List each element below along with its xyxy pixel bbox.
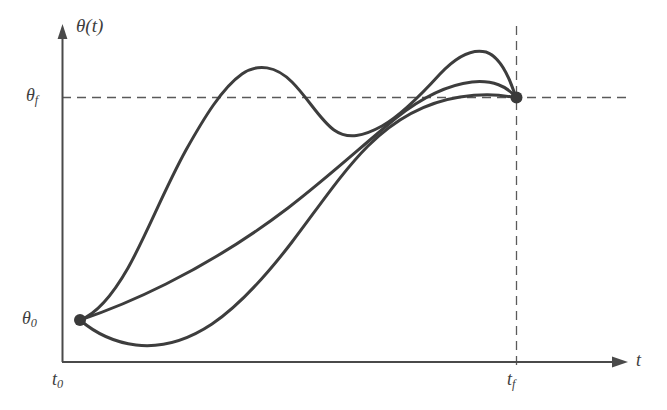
- curve-mild-overshoot-trajectory: [80, 82, 516, 320]
- endpoint-marker-initial: [74, 314, 86, 326]
- x-axis-arrowhead-icon: [612, 357, 628, 368]
- y-tick-label-theta-0: θ0: [22, 309, 37, 330]
- y-tick-label-theta-f: θf: [26, 86, 38, 107]
- x-tick-label-t-f: tf: [507, 370, 515, 391]
- y-axis-label-theta: θ: [76, 15, 85, 36]
- endpoint-marker-final: [511, 92, 523, 104]
- trajectory-plot-figure: θ(t) t θf θ0 t0 tf: [0, 0, 667, 410]
- theta-f-base: θ: [26, 85, 35, 105]
- curve-oscillatory-overshoot-trajectory: [80, 51, 516, 320]
- y-axis-label: θ(t): [76, 16, 103, 35]
- curve-undershoot-sigmoid-trajectory: [80, 95, 516, 346]
- y-axis-label-close-paren: ): [97, 15, 103, 36]
- theta-0-subscript: 0: [31, 316, 37, 330]
- x-tick-label-t-0: t0: [52, 370, 63, 391]
- t-0-subscript: 0: [57, 377, 63, 391]
- t-f-subscript: f: [512, 377, 515, 391]
- x-axis-label-t: t: [636, 350, 641, 370]
- theta-f-subscript: f: [35, 93, 38, 107]
- plot-canvas: [0, 0, 667, 410]
- y-axis-arrowhead-icon: [58, 24, 68, 39]
- theta-0-base: θ: [22, 308, 31, 328]
- x-axis-label: t: [636, 351, 641, 369]
